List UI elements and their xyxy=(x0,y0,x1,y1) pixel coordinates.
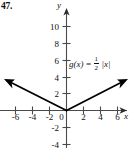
x-tick-label-neg6: -6 xyxy=(12,113,20,122)
function-lhs: g(x) xyxy=(69,60,84,69)
y-tick-label-4: 4 xyxy=(40,73,59,82)
function-equals-sign: = xyxy=(86,60,91,69)
absolute-value-argument: |x| xyxy=(102,60,111,69)
coefficient-fraction: 1 2 xyxy=(94,56,100,72)
y-tick-label-neg4: -4 xyxy=(38,140,59,149)
y-axis-label: y xyxy=(57,1,61,10)
y-tick-label-10: 10 xyxy=(40,22,59,31)
y-tick-label-8: 8 xyxy=(40,39,59,48)
fraction-denominator: 2 xyxy=(94,64,100,72)
x-tick-label-4: 4 xyxy=(98,113,103,122)
y-tick-label-neg2: -2 xyxy=(38,123,59,132)
x-tick-label-zero: 0 xyxy=(59,113,64,122)
coordinate-plot xyxy=(0,0,133,149)
x-tick-label-neg4: -4 xyxy=(29,113,37,122)
y-tick-label-2: 2 xyxy=(40,89,59,98)
function-equation-label: g(x) = 1 2 |x| xyxy=(69,56,111,72)
curve-right-branch xyxy=(67,81,125,111)
x-tick-label-2: 2 xyxy=(81,113,86,122)
figure-screenshot: 47. xyxy=(0,0,133,149)
fraction-numerator: 1 xyxy=(94,56,100,64)
x-axis-label: x xyxy=(124,112,128,121)
y-tick-label-6: 6 xyxy=(40,56,59,65)
x-tick-label-neg2: -2 xyxy=(46,113,54,122)
x-tick-label-6: 6 xyxy=(115,113,120,122)
